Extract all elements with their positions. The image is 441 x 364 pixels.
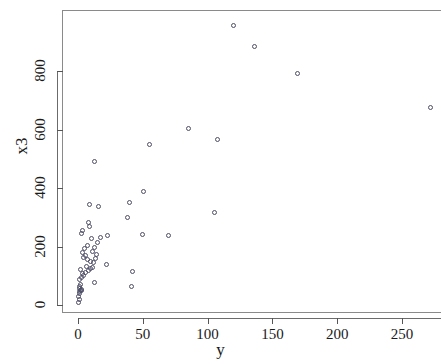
data-point	[87, 202, 92, 207]
data-point	[92, 280, 97, 285]
data-point	[215, 137, 220, 142]
data-point	[141, 189, 146, 194]
data-point	[147, 142, 152, 147]
y-tick-label: 600	[32, 109, 49, 149]
x-tick-mark	[208, 318, 209, 324]
data-point	[92, 245, 97, 250]
data-point	[78, 282, 83, 287]
data-point	[166, 233, 171, 238]
x-axis-line	[78, 318, 441, 319]
data-point	[96, 204, 101, 209]
data-point	[94, 252, 99, 257]
data-point	[295, 71, 300, 76]
x-tick-mark	[78, 318, 79, 324]
data-point	[428, 105, 433, 110]
x-tick-mark	[272, 318, 273, 324]
data-point	[80, 228, 85, 233]
data-point	[93, 256, 98, 261]
data-point	[90, 265, 95, 270]
data-point	[92, 159, 97, 164]
x-tick-mark	[402, 318, 403, 324]
x-tick-mark	[337, 318, 338, 324]
data-point	[104, 262, 109, 267]
plot-data-area	[62, 10, 441, 313]
data-point	[84, 264, 89, 269]
x-tick-mark	[143, 318, 144, 324]
data-point	[125, 215, 130, 220]
data-point	[95, 240, 100, 245]
data-point	[130, 269, 135, 274]
x-axis-title: y	[0, 340, 441, 360]
data-point	[89, 236, 94, 241]
data-point	[231, 23, 236, 28]
y-tick-label: 400	[32, 168, 49, 208]
data-point	[140, 232, 145, 237]
data-point	[212, 210, 217, 215]
scatter-plot-figure: 0200400600800 050100150200250 x3 y	[0, 0, 441, 364]
y-tick-label: 800	[32, 51, 49, 91]
y-axis-title: x3	[12, 126, 32, 166]
data-point	[186, 126, 191, 131]
y-tick-label: 0	[32, 285, 49, 325]
data-point	[127, 200, 132, 205]
data-point	[98, 235, 103, 240]
y-tick-label: 200	[32, 226, 49, 266]
data-point	[85, 243, 90, 248]
data-point	[252, 44, 257, 49]
data-point	[129, 284, 134, 289]
data-point	[105, 233, 110, 238]
